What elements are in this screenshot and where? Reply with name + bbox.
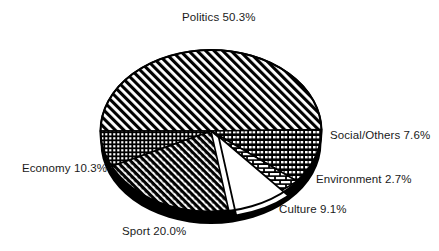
pie-label-politics: Politics 50.3% [182, 10, 256, 24]
pie-label-culture: Culture 9.1% [279, 202, 347, 216]
pie-chart-svg [0, 0, 439, 251]
pie-label-economy: Economy 10.3% [22, 161, 107, 175]
pie-slice-politics[interactable] [101, 50, 322, 131]
pie-label-environment: Environment 2.7% [316, 172, 412, 186]
pie-label-social-others: Social/Others 7.6% [330, 128, 430, 142]
pie-chart-figure: Politics 50.3% Social/Others 7.6% Enviro… [0, 0, 439, 251]
pie-label-sport: Sport 20.0% [122, 224, 186, 238]
